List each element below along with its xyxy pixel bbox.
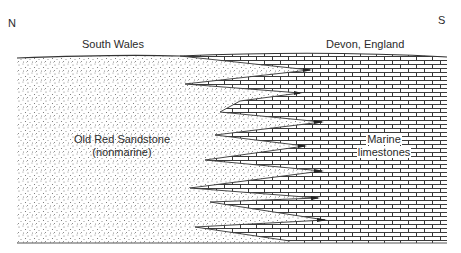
south-label: S: [438, 14, 445, 26]
sandstone-label: Old Red Sandstone (nonmarine): [67, 133, 177, 159]
limestone-label: Marine limestones: [352, 133, 416, 159]
limestone-name: Marine: [366, 133, 402, 145]
sandstone-name: Old Red Sandstone: [67, 133, 177, 146]
devon-england-label: Devon, England: [326, 38, 404, 51]
north-label: N: [8, 17, 16, 29]
sandstone-qualifier: (nonmarine): [67, 146, 177, 159]
limestone-type: limestones: [357, 146, 412, 158]
south-wales-label: South Wales: [82, 38, 144, 51]
